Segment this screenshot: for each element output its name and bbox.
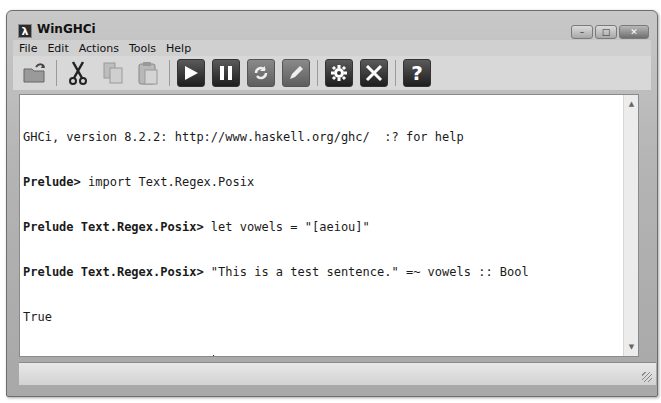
help-button[interactable]: ? bbox=[403, 59, 431, 87]
copy-icon bbox=[102, 61, 124, 85]
prompt: Prelude Text.Regex.Posix> bbox=[23, 265, 204, 279]
text-cursor bbox=[213, 355, 214, 357]
pencil-icon bbox=[287, 64, 305, 82]
gear-icon bbox=[330, 64, 348, 82]
menu-bar: File Edit Actions Tools Help bbox=[13, 40, 651, 56]
scissors-icon bbox=[68, 60, 88, 86]
winghci-window: λ WinGHCi – □ ✕ File Edit Actions Tools … bbox=[6, 10, 658, 397]
toolbar-separator bbox=[56, 60, 57, 86]
lambda-app-icon: λ bbox=[18, 24, 32, 38]
resize-grip-icon[interactable] bbox=[642, 372, 652, 382]
options-button[interactable] bbox=[325, 59, 353, 87]
open-button[interactable] bbox=[21, 59, 49, 87]
ghci-console[interactable]: GHCi, version 8.2.2: http://www.haskell.… bbox=[19, 94, 639, 357]
paste-button[interactable] bbox=[134, 59, 162, 87]
status-bar bbox=[19, 362, 656, 385]
console-line: Prelude Text.Regex.Posix> "This is a tes… bbox=[23, 265, 529, 280]
scroll-up-arrow-icon[interactable]: ▲ bbox=[624, 97, 639, 111]
window-controls: – □ ✕ bbox=[571, 25, 649, 39]
toolbar-separator bbox=[395, 60, 396, 86]
run-button[interactable] bbox=[177, 59, 205, 87]
console-line: Prelude> import Text.Regex.Posix bbox=[23, 175, 529, 190]
toolbar-separator bbox=[169, 60, 170, 86]
console-line: GHCi, version 8.2.2: http://www.haskell.… bbox=[23, 130, 529, 145]
copy-button[interactable] bbox=[99, 59, 127, 87]
console-input-line[interactable]: Prelude Text.Regex.Posix> bbox=[23, 355, 529, 357]
prompt: Prelude Text.Regex.Posix> bbox=[23, 355, 204, 357]
toolbar: ? bbox=[13, 56, 651, 90]
close-button[interactable]: ✕ bbox=[619, 25, 649, 39]
tools-button[interactable] bbox=[360, 59, 388, 87]
vertical-scrollbar[interactable]: ▲ ▼ bbox=[623, 95, 638, 356]
prompt: Prelude Text.Regex.Posix> bbox=[23, 220, 204, 234]
reload-button[interactable] bbox=[247, 59, 275, 87]
menu-help[interactable]: Help bbox=[166, 42, 191, 55]
toolbar-separator bbox=[317, 60, 318, 86]
maximize-button[interactable]: □ bbox=[595, 25, 617, 39]
tools-icon bbox=[365, 64, 383, 82]
menu-actions[interactable]: Actions bbox=[79, 42, 119, 55]
console-line: True bbox=[23, 310, 529, 325]
title-bar[interactable] bbox=[7, 11, 657, 33]
menu-file[interactable]: File bbox=[19, 42, 37, 55]
window-title: WinGHCi bbox=[37, 22, 96, 36]
open-folder-icon bbox=[22, 61, 48, 85]
cut-button[interactable] bbox=[64, 59, 92, 87]
edit-button[interactable] bbox=[282, 59, 310, 87]
scroll-down-arrow-icon[interactable]: ▼ bbox=[624, 340, 639, 354]
question-mark-icon: ? bbox=[411, 61, 423, 85]
menu-edit[interactable]: Edit bbox=[47, 42, 68, 55]
minimize-button[interactable]: – bbox=[571, 25, 593, 39]
paste-icon bbox=[137, 60, 159, 86]
play-icon bbox=[183, 65, 199, 81]
pause-button[interactable] bbox=[212, 59, 240, 87]
pause-icon bbox=[218, 65, 234, 81]
console-output: GHCi, version 8.2.2: http://www.haskell.… bbox=[23, 100, 529, 357]
console-line: Prelude Text.Regex.Posix> let vowels = "… bbox=[23, 220, 529, 235]
menu-tools[interactable]: Tools bbox=[129, 42, 156, 55]
reload-icon bbox=[252, 64, 270, 82]
prompt: Prelude> bbox=[23, 175, 81, 189]
